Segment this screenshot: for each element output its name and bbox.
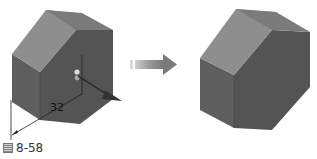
figure-icon — [3, 143, 13, 153]
figure-caption-number: 8-58 — [16, 141, 43, 155]
prism-after — [200, 9, 310, 130]
transition-arrow-icon — [130, 54, 177, 75]
figure-canvas: 32 — [0, 0, 317, 159]
figure-caption: 8-58 — [3, 141, 43, 155]
dimension-label: 32 — [50, 101, 64, 114]
dimension-arrowhead — [12, 130, 18, 135]
handle-dot-top[interactable] — [74, 69, 79, 74]
